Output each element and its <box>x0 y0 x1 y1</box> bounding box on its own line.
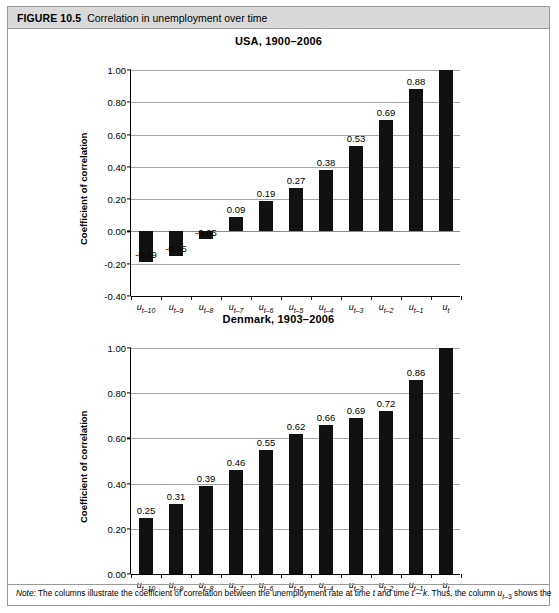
bar-value-label: 0.69 <box>377 107 396 118</box>
bar <box>319 170 333 231</box>
x-tick-mark <box>251 296 252 300</box>
x-tick-mark <box>461 296 462 300</box>
y-axis-title: Coefficient of correlation <box>78 411 89 523</box>
x-tick-mark <box>131 296 132 300</box>
x-axis-baseline <box>131 574 460 575</box>
bar-value-label: -0.19 <box>135 249 157 260</box>
bar <box>259 201 273 232</box>
x-tick-mark <box>191 296 192 300</box>
bar-value-label: -0.05 <box>195 227 217 238</box>
bar-value-label: 0.39 <box>197 473 216 484</box>
bar-value-label: 0.27 <box>287 175 306 186</box>
bar <box>409 89 423 231</box>
y-tick-mark <box>127 393 131 394</box>
x-tick-mark <box>431 574 432 578</box>
y-tick-mark <box>127 199 131 200</box>
y-axis-title: Coefficient of correlation <box>78 133 89 245</box>
x-tick-mark <box>431 296 432 300</box>
y-tick-mark <box>127 438 131 439</box>
plot-area: 1.000.800.600.400.200.000.25ut–100.31ut–… <box>130 348 460 574</box>
y-tick-label: 0.60 <box>108 129 127 140</box>
x-tick-mark <box>281 574 282 578</box>
bar-value-label: 0.46 <box>227 457 246 468</box>
bar <box>229 470 243 574</box>
x-tick-mark <box>161 574 162 578</box>
bar <box>379 411 393 574</box>
y-tick-mark <box>127 69 131 70</box>
bar <box>199 486 213 574</box>
x-tick-mark <box>191 574 192 578</box>
gridline <box>131 70 460 71</box>
bar-value-label: 0.53 <box>347 133 366 144</box>
bar <box>349 146 363 232</box>
bar <box>409 380 423 574</box>
x-tick-mark <box>221 296 222 300</box>
figure-number: FIGURE 10.5 <box>17 12 81 24</box>
y-tick-mark <box>127 102 131 103</box>
y-tick-label: 1.00 <box>108 343 127 354</box>
bar-value-label: 0.09 <box>227 204 246 215</box>
bar-value-label: -0.15 <box>165 243 187 254</box>
x-tick-mark <box>221 574 222 578</box>
x-tick-mark <box>461 574 462 578</box>
note-text-line: Note: The columns illustrate the coeffic… <box>16 588 541 602</box>
chart-denmark: Denmark, 1903–2006 Coefficient of correl… <box>8 307 549 592</box>
bar-value-label: 0.86 <box>407 367 426 378</box>
x-tick-mark <box>371 296 372 300</box>
y-tick-mark <box>127 231 131 232</box>
y-tick-mark <box>127 347 131 348</box>
bar-value-label: 0.69 <box>347 405 366 416</box>
gridline <box>131 264 460 265</box>
bar <box>259 450 273 574</box>
x-tick-mark <box>281 296 282 300</box>
x-tick-mark <box>401 574 402 578</box>
bar-value-label: 0.25 <box>137 505 156 516</box>
figure-note: Note: The columns illustrate the coeffic… <box>8 584 549 605</box>
bar-value-label: 0.38 <box>317 157 336 168</box>
plot-wrap-denmark: Coefficient of correlation1.000.800.600.… <box>8 307 549 592</box>
bar-value-label: 0.55 <box>257 437 276 448</box>
x-axis-baseline <box>131 296 460 297</box>
y-tick-label: 0.80 <box>108 97 127 108</box>
bar <box>349 418 363 574</box>
x-tick-mark <box>251 574 252 578</box>
bar-value-label: 0.31 <box>167 491 186 502</box>
bar-value-label: 0.62 <box>287 421 306 432</box>
y-tick-mark <box>127 166 131 167</box>
figure-header: FIGURE 10.5 Correlation in unemployment … <box>8 7 549 29</box>
x-tick-mark <box>341 296 342 300</box>
x-tick-mark <box>311 296 312 300</box>
y-tick-label: 0.20 <box>108 523 127 534</box>
bar <box>439 348 453 574</box>
x-tick-mark <box>341 574 342 578</box>
y-tick-mark <box>127 134 131 135</box>
y-tick-label: -0.40 <box>104 291 126 302</box>
plot-area: 1.000.800.600.400.200.00-0.20-0.40-0.19u… <box>130 70 460 296</box>
bar <box>379 120 393 231</box>
x-tick-mark <box>311 574 312 578</box>
y-tick-label: 0.00 <box>108 569 127 580</box>
y-tick-label: -0.20 <box>104 258 126 269</box>
x-tick-mark <box>401 296 402 300</box>
bar-value-label: 0.66 <box>317 412 336 423</box>
y-tick-mark <box>127 483 131 484</box>
note-body: The columns illustrate the coefficient o… <box>38 588 551 598</box>
bar <box>139 518 153 575</box>
x-tick-mark <box>161 296 162 300</box>
plot-wrap-usa: Coefficient of correlation1.000.800.600.… <box>8 29 549 314</box>
bar-value-label: 0.88 <box>407 76 426 87</box>
y-tick-label: 0.40 <box>108 161 127 172</box>
y-tick-label: 0.00 <box>108 226 127 237</box>
bar <box>319 425 333 574</box>
y-tick-label: 0.60 <box>108 433 127 444</box>
bar <box>439 70 453 231</box>
bar <box>289 434 303 574</box>
chart-usa: USA, 1900–2006 Coefficient of correlatio… <box>8 29 549 314</box>
x-tick-mark <box>371 574 372 578</box>
bar-value-label: 0.19 <box>257 188 276 199</box>
y-tick-label: 1.00 <box>108 65 127 76</box>
gridline <box>131 348 460 349</box>
figure-caption: Correlation in unemployment over time <box>87 12 267 24</box>
note-prefix: Note: <box>16 588 36 598</box>
y-tick-label: 0.80 <box>108 388 127 399</box>
